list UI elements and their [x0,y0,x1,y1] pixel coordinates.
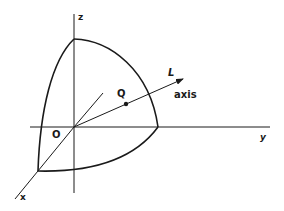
point-q-dot [124,102,128,106]
l-axis-label: L [168,67,174,78]
surface-edge-top-right [74,39,158,127]
l-axis-arrow [74,79,183,127]
x-axis-label: x [20,192,26,202]
point-q-label: Q [117,88,126,99]
diagram-canvas: z y x O Q L axis [0,0,284,211]
z-axis-label: z [78,12,83,22]
origin-label: O [52,129,61,140]
y-axis-label: y [260,132,267,142]
inner-diagonal-line [74,93,103,127]
surface-edge-left [38,39,74,171]
x-axis-line [15,127,74,199]
axis-caption-label: axis [174,89,197,100]
